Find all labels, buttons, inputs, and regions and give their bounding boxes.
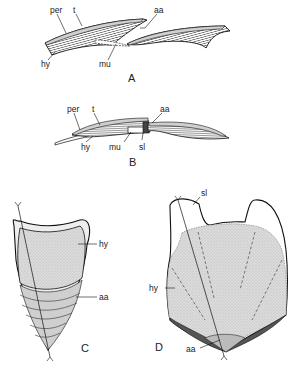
label-sl: sl <box>201 188 207 198</box>
label-per: per <box>50 5 62 15</box>
label-per: per <box>67 104 79 114</box>
label-hy: hy <box>81 142 91 152</box>
label-aa: aa <box>154 5 164 15</box>
label-hy: hy <box>149 283 159 293</box>
label-aa: aa <box>186 344 196 354</box>
panel-b: per t aa hy mu sl B <box>55 104 229 168</box>
label-hy: hy <box>99 239 109 249</box>
panel-label-c: C <box>81 342 89 354</box>
panel-a: per t aa hy mu A <box>41 5 230 84</box>
label-hy: hy <box>41 59 51 69</box>
panel-label-d: D <box>155 341 163 353</box>
hinge-b-mu <box>128 127 144 133</box>
panel-label-b: B <box>129 156 136 168</box>
label-sl: sl <box>139 142 145 152</box>
scale-diagram: per t aa hy mu A per t aa hy mu sl B <box>0 0 301 375</box>
scale-c-hy-area <box>18 226 85 289</box>
panel-c: hy aa C <box>13 202 108 361</box>
label-mu: mu <box>109 142 121 152</box>
label-mu: mu <box>99 59 111 69</box>
label-aa: aa <box>99 292 109 302</box>
label-t: t <box>73 5 76 15</box>
panel-label-a: A <box>128 72 136 84</box>
label-aa: aa <box>160 104 170 114</box>
label-t: t <box>92 104 95 114</box>
panel-d: sl hy aa D <box>149 188 288 360</box>
